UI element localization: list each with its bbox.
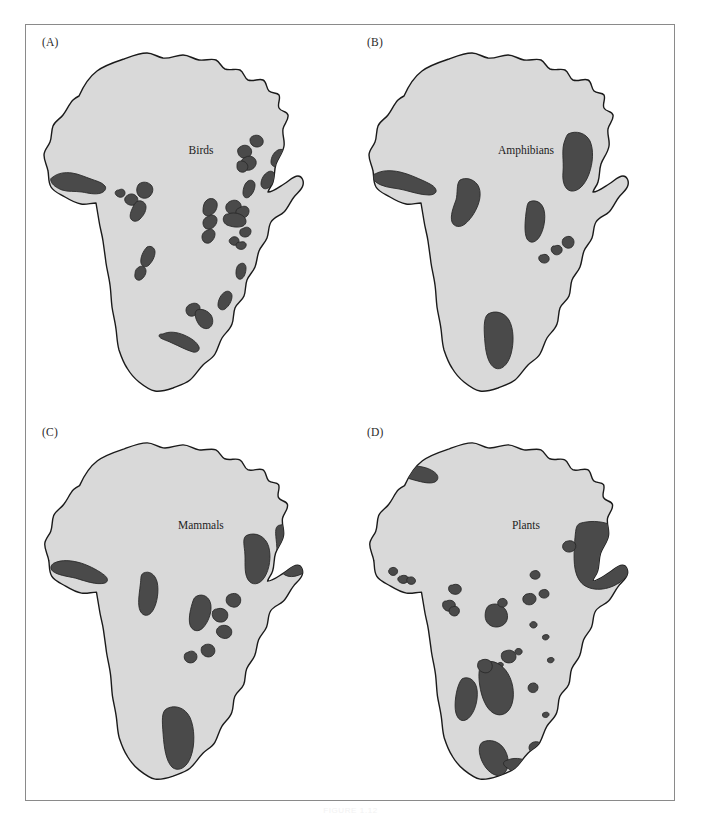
hotspot-malawi-dot bbox=[515, 649, 522, 655]
figure-caption: FIGURE 1.12 bbox=[0, 806, 701, 815]
hotspot-cape-region bbox=[484, 312, 513, 369]
panel-c-mammals: (C) Mammals bbox=[25, 414, 350, 802]
hotspot-cameroon-patch-2 bbox=[449, 606, 459, 616]
panel-d-map-svg: Plants bbox=[350, 414, 675, 802]
hotspot-congo-basin-2 bbox=[498, 598, 508, 607]
hotspot-horn-of-africa bbox=[276, 524, 320, 577]
hotspot-ethiopia-highlands-s bbox=[237, 161, 248, 172]
hotspot-canary-islands-1 bbox=[389, 567, 398, 575]
hotspot-eastern-arc-1 bbox=[562, 236, 574, 248]
map-title-amphibians: Amphibians bbox=[498, 144, 555, 157]
hotspot-zambezian-arm bbox=[478, 659, 493, 672]
hotspot-southern-cape-tip bbox=[539, 358, 549, 367]
hotspot-eastern-arc-3 bbox=[539, 254, 549, 263]
hotspot-ethiopia-patch bbox=[563, 541, 576, 552]
hotspot-eastern-arc-3 bbox=[216, 625, 231, 638]
hotspot-togo-gap bbox=[449, 584, 462, 594]
hotspot-eastern-arc-1 bbox=[226, 593, 241, 607]
hotspot-tanzania-dot-1 bbox=[530, 622, 537, 628]
map-title-plants: Plants bbox=[512, 519, 541, 531]
hotspot-eastern-congo bbox=[523, 593, 536, 604]
hotspot-zambia-patch bbox=[501, 650, 516, 663]
hotspot-ethiopia-north-tip bbox=[250, 135, 263, 147]
hotspot-horn-of-africa bbox=[574, 521, 635, 589]
hotspot-albany-dot bbox=[542, 712, 549, 717]
hotspot-tanzania-patch-1 bbox=[240, 227, 251, 237]
map-title-birds: Birds bbox=[189, 144, 214, 156]
panel-b-amphibians: (B) Amphibians bbox=[350, 24, 675, 414]
panel-a-map-svg: Birds bbox=[25, 24, 350, 414]
hotspot-cameroon-highlands-1 bbox=[137, 182, 153, 198]
hotspot-congo-basin-1 bbox=[485, 604, 507, 627]
hotspot-maputaland bbox=[528, 683, 538, 693]
panel-b-map-svg: Amphibians bbox=[350, 24, 675, 414]
panel-c-map-svg: Mammals bbox=[25, 414, 350, 802]
figure-root: (A) Birds (B) Amphibians (C) Mammals (D)… bbox=[0, 0, 701, 825]
panel-d-plants: (D) Plants bbox=[350, 414, 675, 802]
hotspot-east-coast-dot bbox=[547, 657, 554, 662]
panel-a-birds: (A) Birds bbox=[25, 24, 350, 414]
hotspot-eastern-arc-2 bbox=[212, 608, 228, 622]
map-title-mammals: Mammals bbox=[178, 519, 224, 531]
hotspot-south-coast-1 bbox=[504, 758, 536, 776]
hotspot-tanzania-patch-3 bbox=[236, 242, 246, 250]
hotspot-tanzania-dot-2 bbox=[542, 635, 549, 640]
hotspot-upper-guinea-patch bbox=[115, 189, 125, 197]
hotspot-eastern-arc-4 bbox=[201, 644, 215, 657]
hotspot-kenya-patch bbox=[539, 589, 549, 598]
hotspot-uganda-patch bbox=[530, 571, 540, 580]
hotspot-guinea-patch bbox=[407, 577, 416, 584]
hotspot-eastern-arc-2 bbox=[551, 245, 562, 254]
hotspot-eastern-arc-5 bbox=[184, 651, 197, 663]
